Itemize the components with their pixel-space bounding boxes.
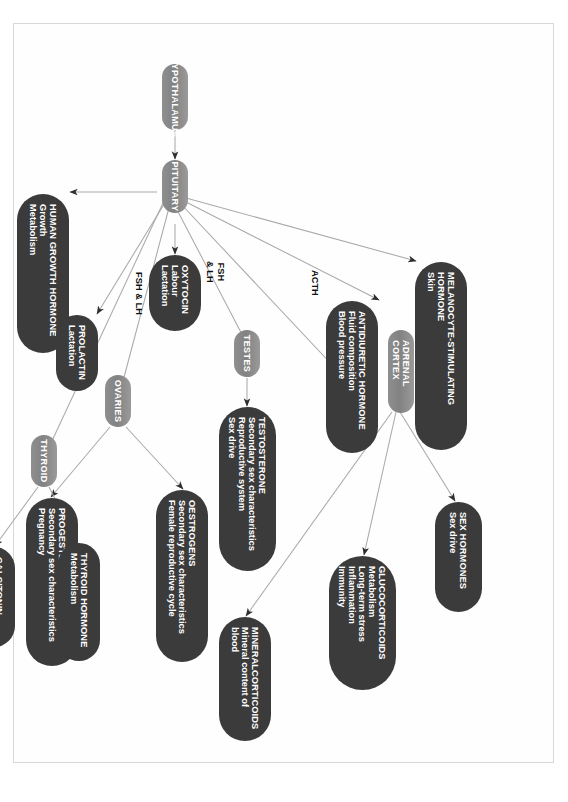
- node-effect: Metabolism: [367, 566, 377, 680]
- node-adrenal-cortex[interactable]: ADRENAL CORTEX: [388, 330, 414, 413]
- node-thyroid-hormone[interactable]: THYROID HORMONE Metabolism: [58, 543, 100, 661]
- node-effect: Labour: [170, 265, 180, 321]
- node-label: GLUCOCORTICOIDS: [377, 566, 387, 680]
- edge-pituitary-adh: [184, 201, 379, 300]
- node-effect: Fluid composition: [347, 311, 357, 443]
- node-effect: Lactation: [67, 325, 77, 381]
- node-label: MELANOCYTE-STIMULATING HORMONE: [436, 272, 456, 440]
- edge-label-fsh-lh-ovaries: FSH & LH: [133, 272, 144, 315]
- node-label: ADRENAL CORTEX: [391, 340, 411, 403]
- node-effect: Lactation: [160, 265, 170, 321]
- node-hypothalamus[interactable]: HYPOTHALAMUS: [162, 64, 188, 130]
- node-label: ANTIDIURETIC HORMONE: [357, 311, 367, 443]
- node-prolactin[interactable]: PROLACTIN Lactation: [56, 315, 98, 391]
- node-label: THYROID: [39, 439, 49, 482]
- node-label: CALCITONIN: [0, 557, 4, 637]
- node-effect: Secondary sex characteristics: [47, 508, 57, 656]
- node-effect: Sex drive: [227, 417, 237, 561]
- edge-ovaries-oestrogens: [126, 427, 183, 489]
- node-label: PITUITARY: [170, 161, 180, 211]
- node-oxytocin[interactable]: OXYTOCIN Labour Lactation: [149, 255, 201, 331]
- edge-pituitary-msh: [186, 198, 416, 261]
- node-oestrogens[interactable]: OESTROGENS Secondary sex characteristics…: [156, 490, 208, 662]
- node-ovaries[interactable]: OVARIES: [105, 375, 131, 427]
- node-effect: Secondary sex characteristics: [247, 417, 257, 561]
- node-label: OESTROGENS: [187, 500, 197, 652]
- node-glucocorticoids[interactable]: GLUCOCORTICOIDS Metabolism Long-term str…: [329, 556, 396, 690]
- node-effect: Sex drive: [448, 512, 458, 602]
- node-effect: Skin: [426, 272, 436, 440]
- node-effect: Inflammation: [347, 566, 357, 680]
- node-label: THYROID HORMONE: [79, 553, 89, 651]
- node-effect: blood: [230, 627, 240, 731]
- node-effect: Secondary sex characteristics: [177, 500, 187, 652]
- node-calcitonin[interactable]: CALCITONIN Blood calcium: [0, 547, 15, 647]
- node-label: OXYTOCIN: [180, 265, 190, 321]
- node-effect: Reproductive system: [237, 417, 247, 561]
- diagram-page: HYPOTHALAMUS PITUITARY ADRENAL CORTEX TE…: [0, 0, 568, 802]
- node-label: MINERALCORTICOIDS: [250, 627, 260, 731]
- edge-pituitary-adrenal-cortex: [180, 203, 351, 385]
- node-antidiuretic-hormone[interactable]: ANTIDIURETIC HORMONE Fluid composition B…: [326, 301, 378, 453]
- node-mineralcorticoids[interactable]: MINERALCORTICOIDS Mineral content of blo…: [219, 617, 271, 741]
- node-label: PROLACTIN: [77, 325, 87, 381]
- node-label: TESTES: [242, 335, 252, 372]
- node-thyroid[interactable]: THYROID: [31, 435, 57, 487]
- node-label: OVARIES: [113, 380, 123, 423]
- node-effect: Immunity: [337, 566, 347, 680]
- node-effect: Metabolism: [69, 553, 79, 651]
- node-effect: Growth: [38, 204, 48, 343]
- node-effect: Blood pressure: [337, 311, 347, 443]
- node-effect: Mineral content of: [240, 627, 250, 731]
- edge-label-fsh-lh-testes: FSH & LH: [204, 261, 225, 283]
- node-testosterone[interactable]: TESTOSTERONE Secondary sex characteristi…: [219, 407, 276, 571]
- page-frame: HYPOTHALAMUS PITUITARY ADRENAL CORTEX TE…: [13, 23, 554, 763]
- node-label: TESTOSTERONE: [257, 417, 267, 561]
- edge-ovaries-progesterone: [51, 427, 110, 497]
- edge-label-acth: ACTH: [309, 270, 320, 296]
- node-label: HYPOTHALAMUS: [170, 57, 180, 138]
- diagram-canvas: HYPOTHALAMUS PITUITARY ADRENAL CORTEX TE…: [22, 23, 546, 763]
- node-label: SEX HORMONES: [458, 512, 468, 602]
- node-label: HUMAN GROWTH HORMONE: [48, 204, 58, 343]
- node-effect: Female reproductive cycle: [167, 500, 177, 652]
- node-effect: Long-term stress: [357, 566, 367, 680]
- node-melanocyte-stimulating-hormone[interactable]: MELANOCYTE-STIMULATING HORMONE Skin: [415, 262, 467, 450]
- node-testes[interactable]: TESTES: [234, 330, 260, 377]
- node-effect: Pregnancy: [37, 508, 47, 656]
- node-effect: Metabolism: [28, 204, 38, 343]
- node-sex-hormones[interactable]: SEX HORMONES Sex drive: [435, 502, 482, 612]
- node-pituitary[interactable]: PITUITARY: [162, 160, 188, 213]
